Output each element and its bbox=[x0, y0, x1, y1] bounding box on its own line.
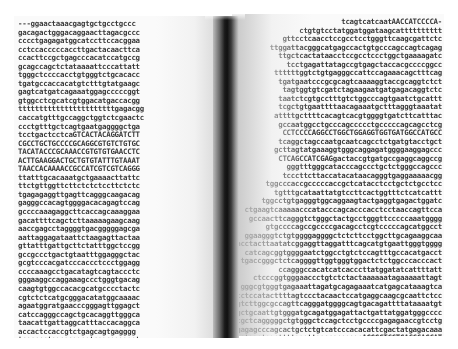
right-page: tcagtcatcaatAACCATCCCCA-ctgtgtcctatggatg… bbox=[232, 14, 444, 336]
right-page-gutter-shade bbox=[232, 14, 312, 336]
spine-top-highlight bbox=[205, 12, 245, 20]
open-book: ---ggaactaaacgagtgctgcctgcccgacagactggga… bbox=[0, 0, 458, 349]
book-spine bbox=[213, 16, 239, 338]
left-page-text: ---ggaactaaacgagtgctgcctgcccgacagactggga… bbox=[18, 20, 144, 338]
sequence-line: tcacccctagagaggaatcagcgggggat bbox=[18, 336, 144, 338]
left-page: ---ggaactaaacgagtgctgcctgcccgacagactggga… bbox=[14, 16, 226, 338]
